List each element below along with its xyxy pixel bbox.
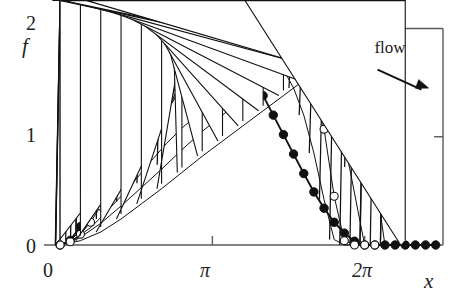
marker-open-circle [361,241,369,249]
y-tick-label-1: 1 [26,124,36,146]
marker-open-circle [66,238,74,246]
marker-filled-circle [289,150,297,158]
marker-filled-circle [269,111,277,119]
chart-canvas: f x 2 1 0 0 π 2π flow [0,0,459,302]
marker-filled-circle [381,241,389,249]
marker-filled-circle [310,188,318,196]
x-tick-label-pi: π [200,259,211,281]
marker-filled-circle [421,241,429,249]
marker-open-circle [330,192,338,200]
marker-filled-circle [411,241,419,249]
marker-open-circle [351,241,359,249]
y-tick-label-0: 0 [26,235,36,257]
marker-filled-circle [320,204,328,212]
marker-filled-circle [340,229,348,237]
x-tick-label-2pi: 2π [352,259,373,281]
flow-label: flow [374,38,406,57]
y-tick-label-2: 2 [26,12,36,34]
x-axis-label: x [423,269,434,293]
y-axis-label: f [22,34,31,58]
marker-filled-circle [391,241,399,249]
marker-filled-circle [330,218,338,226]
figure-chart-wave-steepening: f x 2 1 0 0 π 2π flow [0,0,459,302]
marker-open-circle [340,237,348,245]
x-tick-label-0: 0 [43,259,53,281]
flow-arrow-head [416,80,429,89]
marker-filled-circle [279,130,287,138]
marker-filled-circle [431,241,439,249]
marker-filled-circle [300,169,308,177]
marker-open-circle [371,241,379,249]
